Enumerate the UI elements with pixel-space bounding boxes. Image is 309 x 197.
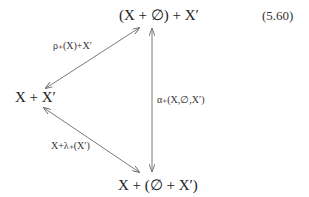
- label-lambda: X+λ₊(X′): [51, 140, 90, 151]
- label-rho: ρ₊(X)+X′: [53, 40, 92, 51]
- node-left: X + X′: [15, 89, 56, 106]
- node-bottom: X + (∅ + X′): [118, 176, 198, 194]
- label-alpha: α₊(X,∅,X′): [157, 94, 205, 105]
- arrow-top-left: [46, 28, 139, 88]
- node-top: (X + ∅) + X′: [119, 6, 199, 24]
- equation-number: (5.60): [262, 8, 293, 24]
